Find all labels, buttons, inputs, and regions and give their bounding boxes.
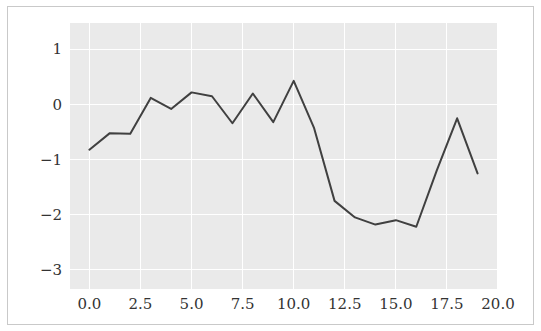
y-tick-label: −2 — [16, 207, 62, 222]
data-polyline — [89, 81, 477, 227]
figure-frame: 10−1−2−3 0.02.55.07.510.012.515.017.520.… — [7, 6, 534, 325]
y-tick-label: −3 — [16, 262, 62, 277]
y-tick-label: −1 — [16, 152, 62, 167]
x-axis-tick-labels: 0.02.55.07.510.012.515.017.520.0 — [70, 297, 498, 317]
plot-area — [70, 23, 498, 289]
y-tick-label: 0 — [16, 97, 62, 112]
chart-figure: 10−1−2−3 0.02.55.07.510.012.515.017.520.… — [0, 0, 541, 331]
y-tick-label: 1 — [16, 42, 62, 57]
x-tick-label: 20.0 — [468, 297, 528, 312]
y-axis-tick-labels: 10−1−2−3 — [8, 23, 62, 289]
line-series — [70, 23, 498, 289]
